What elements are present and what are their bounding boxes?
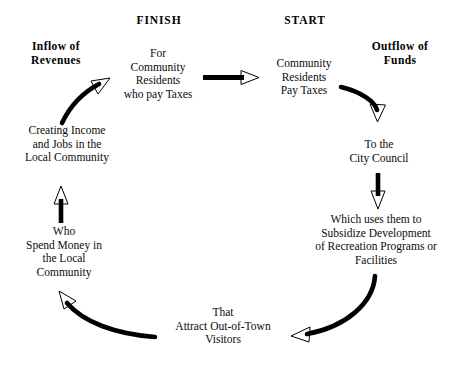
diagram-canvas: FINISH START Inflow of Revenues Outflow … [0, 0, 459, 367]
node-finish-residents: For Community Residents who pay Taxes [110, 47, 206, 101]
node-attract-visitors: That Attract Out-of-Town Visitors [165, 306, 281, 347]
label-inflow-of-revenues: Inflow of Revenues [4, 40, 108, 67]
label-outflow-of-funds: Outflow of Funds [348, 40, 452, 67]
node-city-council: To the City Council [329, 138, 429, 165]
arrow-subsidize-to-attract [291, 276, 375, 342]
node-spend-money: Who Spend Money in the Local Community [12, 225, 116, 279]
arrow-attract-to-spend [59, 291, 155, 337]
arrow-creating-to-finish [62, 78, 110, 123]
label-start: START [258, 14, 352, 28]
node-start-residents-pay-taxes: Community Residents Pay Taxes [256, 57, 352, 98]
label-finish: FINISH [112, 14, 206, 28]
node-subsidize-development: Which uses them to Subsidize Development… [296, 213, 456, 267]
arrow-council-to-subsidize [371, 173, 385, 209]
arrow-spend-to-creating [54, 186, 68, 223]
node-creating-income: Creating Income and Jobs in the Local Co… [9, 124, 125, 165]
arrow-finish-to-start [203, 71, 259, 85]
